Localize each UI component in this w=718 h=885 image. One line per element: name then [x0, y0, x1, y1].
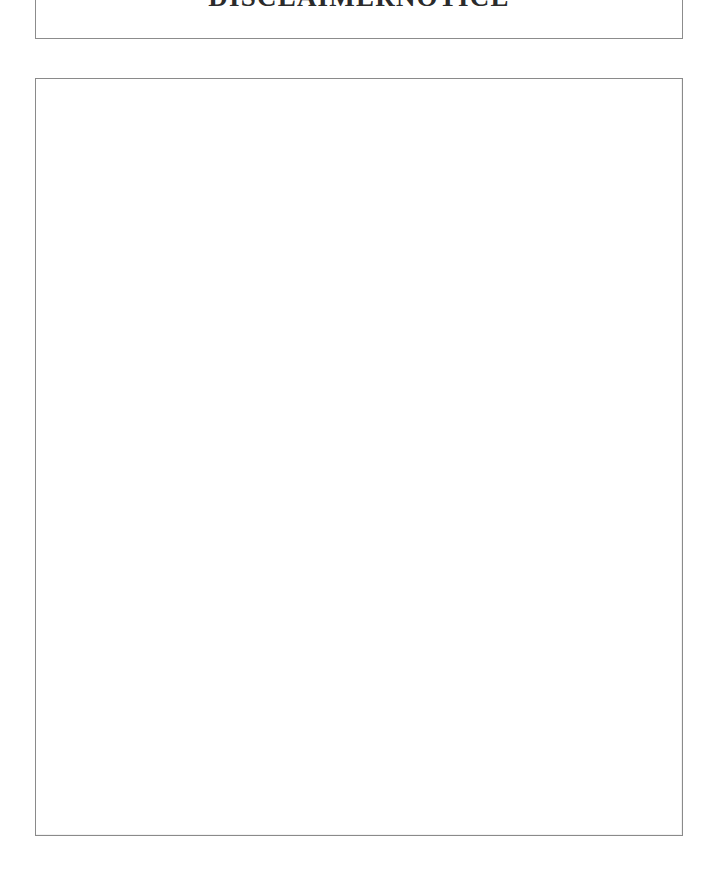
disclaimer-heading-panel: DISCLAIMER NOTICE — [35, 0, 683, 39]
blank-content-frame — [35, 78, 683, 836]
content-body — [36, 79, 682, 835]
page-title-suffix: NOTICE — [396, 0, 510, 7]
heading-text-row: DISCLAIMER NOTICE — [36, 0, 682, 7]
scanned-page: DISCLAIMER NOTICE — [0, 0, 718, 885]
page-title: DISCLAIMER — [208, 0, 396, 7]
